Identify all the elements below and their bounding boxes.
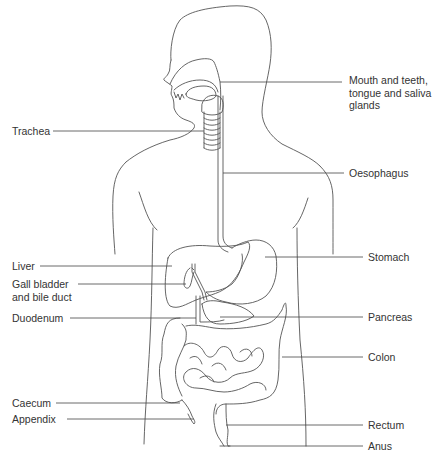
colon bbox=[159, 303, 286, 414]
teeth bbox=[174, 92, 184, 100]
label-colon: Colon bbox=[368, 351, 395, 364]
label-duodenum: Duodenum bbox=[12, 312, 63, 325]
label-gall-bladder: Gall bladder and bile duct bbox=[12, 278, 72, 303]
label-gall-bladder-line-2: and bile duct bbox=[12, 291, 72, 304]
pancreas bbox=[202, 301, 254, 324]
label-appendix: Appendix bbox=[12, 413, 56, 426]
small-intestine bbox=[184, 343, 266, 392]
stomach bbox=[206, 240, 277, 304]
right-shoulder bbox=[320, 166, 333, 254]
label-oesophagus: Oesophagus bbox=[349, 167, 409, 180]
label-liver: Liver bbox=[12, 260, 35, 273]
label-trachea: Trachea bbox=[12, 125, 50, 138]
label-pancreas: Pancreas bbox=[368, 311, 412, 324]
left-shoulder bbox=[113, 162, 126, 254]
face-outline bbox=[126, 60, 195, 162]
digestive-system-diagram bbox=[0, 0, 432, 461]
palate bbox=[174, 80, 218, 92]
label-anus: Anus bbox=[368, 440, 392, 453]
label-mouth-line-1: Mouth and teeth, bbox=[349, 74, 431, 87]
right-torso bbox=[297, 228, 306, 446]
left-torso bbox=[144, 228, 153, 444]
caecum-appendix bbox=[182, 400, 195, 424]
label-mouth: Mouth and teeth, tongue and saliva gland… bbox=[349, 74, 431, 112]
label-mouth-line-2: tongue and saliva bbox=[349, 87, 431, 100]
label-caecum: Caecum bbox=[12, 397, 51, 410]
mouth-region bbox=[170, 59, 223, 115]
right-armpit bbox=[293, 198, 308, 228]
leader-lines bbox=[40, 82, 363, 446]
left-armpit bbox=[139, 192, 157, 230]
tongue bbox=[186, 86, 216, 101]
label-mouth-line-3: glands bbox=[349, 99, 431, 112]
label-rectum: Rectum bbox=[368, 419, 404, 432]
head-outline bbox=[171, 6, 320, 166]
label-gall-bladder-line-1: Gall bladder bbox=[12, 278, 72, 291]
gall-bladder bbox=[184, 264, 207, 300]
label-stomach: Stomach bbox=[368, 251, 409, 264]
liver bbox=[165, 242, 249, 307]
